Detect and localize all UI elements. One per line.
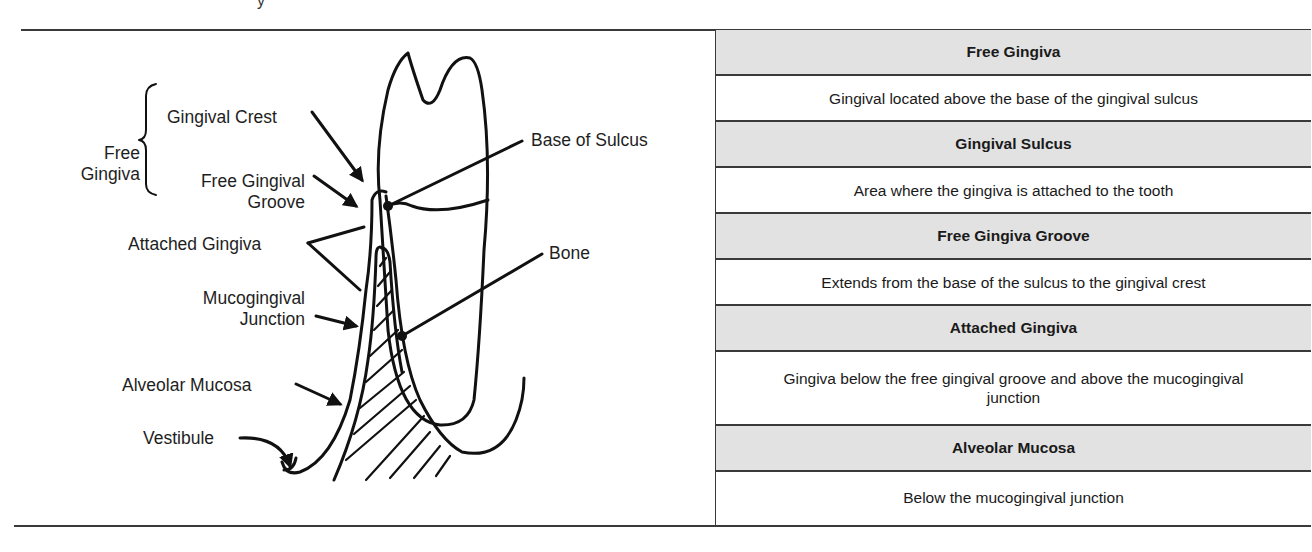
table-row-definition: Below the mucogingival junction [716, 472, 1311, 523]
free-gingival-groove-line2: Groove [150, 192, 305, 213]
bone-label: Bone [549, 243, 590, 264]
table-row-term: Attached Gingiva [716, 306, 1311, 352]
table-row-definition: Area where the gingiva is attached to th… [716, 168, 1311, 214]
mucogingival-junction-label: Mucogingival Junction [160, 288, 305, 330]
alveolar-mucosa-label: Alveolar Mucosa [122, 375, 251, 396]
gingival-crest-label: Gingival Crest [167, 107, 277, 128]
free-gingival-groove-label: Free Gingival Groove [150, 171, 305, 213]
free-gingiva-label-line1: Free [80, 143, 140, 164]
free-gingiva-group-label: Free Gingiva [80, 143, 140, 185]
table-row-term: Gingival Sulcus [716, 122, 1311, 168]
table-row-term: Alveolar Mucosa [716, 426, 1311, 472]
table-row-definition: Gingival located above the base of the g… [716, 76, 1311, 122]
table-row-definition: Gingiva below the free gingival groove a… [716, 352, 1311, 426]
base-of-sulcus-label: Base of Sulcus [531, 130, 648, 151]
table-row-definition: Extends from the base of the sulcus to t… [716, 260, 1311, 306]
vestibule-label: Vestibule [143, 428, 214, 449]
tooth-illustration [0, 30, 715, 526]
cut-off-text-fragment: y [257, 0, 265, 10]
table-row-term: Free Gingiva [716, 30, 1311, 76]
mucogingival-junction-line2: Junction [160, 309, 305, 330]
free-gingiva-label-line2: Gingiva [80, 164, 140, 185]
attached-gingiva-label: Attached Gingiva [128, 234, 261, 255]
gingiva-terms-table: Free Gingiva Gingival located above the … [716, 30, 1311, 523]
table-row-term: Free Gingiva Groove [716, 214, 1311, 260]
gingiva-anatomy-diagram: Free Gingiva Gingival Crest Free Gingiva… [0, 30, 715, 526]
mucogingival-junction-line1: Mucogingival [160, 288, 305, 309]
free-gingival-groove-line1: Free Gingival [150, 171, 305, 192]
